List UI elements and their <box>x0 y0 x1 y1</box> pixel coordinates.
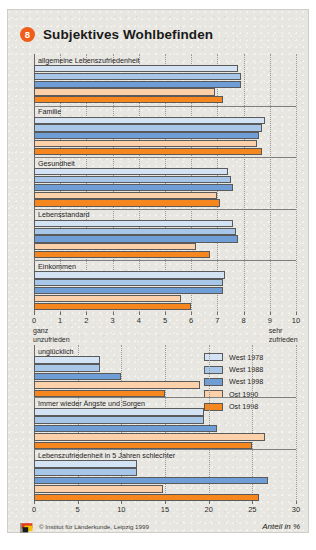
chart-subjektives-wohlbefinden: allgemeine LebenszufriedenheitFamilieGes… <box>34 54 296 312</box>
figure-footer: © Institut für Länderkunde, Leipzig 1999… <box>20 518 300 534</box>
bar <box>34 416 204 424</box>
x-axis-tick <box>34 501 35 504</box>
x-axis-tick <box>217 312 218 315</box>
x-axis-tick <box>165 312 166 315</box>
x-axis-tick-label: 6 <box>189 316 193 325</box>
bar <box>34 88 215 95</box>
x-axis-tick <box>165 501 166 504</box>
category-label: Gesundheit <box>38 159 75 168</box>
category-label: unglücklich <box>38 347 74 356</box>
screenshot-root: 8 Subjektives Wohlbefinden allgemeine Le… <box>0 0 316 550</box>
bar <box>34 243 196 250</box>
x-axis-tick-label: 9 <box>268 316 272 325</box>
x-axis-tick-label: 1 <box>58 316 62 325</box>
unit-note: Anteil in % <box>262 522 300 531</box>
bar <box>34 96 223 103</box>
chart-unwohlbefinden: unglücklichImmer wieder Ängste und Sorge… <box>34 345 296 501</box>
category-label: Lebenszufriedenheit in 5 Jahren schlecht… <box>38 451 175 460</box>
bar <box>34 220 233 227</box>
category-label: Familie <box>38 107 61 116</box>
bar <box>34 460 137 468</box>
bar <box>34 73 241 80</box>
axis-annotation: sehrzufrieden <box>269 327 298 344</box>
x-axis-tick-label: 5 <box>76 505 80 514</box>
x-axis-tick <box>270 312 271 315</box>
top-chart-x-axis: 012345678910ganzunzufriedensehrzufrieden <box>34 312 296 344</box>
bar <box>34 295 181 302</box>
x-axis-tick-label: 0 <box>32 316 36 325</box>
bar <box>34 477 268 485</box>
x-axis-tick <box>139 312 140 315</box>
x-axis-tick <box>113 312 114 315</box>
x-axis-tick-label: 8 <box>242 316 246 325</box>
x-axis-tick-label: 3 <box>111 316 115 325</box>
gridline <box>296 345 297 501</box>
x-axis-tick-label: 20 <box>204 505 212 514</box>
bar <box>34 271 225 278</box>
bar <box>34 381 200 389</box>
x-axis-tick-label: 30 <box>292 505 300 514</box>
gridline <box>270 54 271 312</box>
x-axis-tick-label: 25 <box>248 505 256 514</box>
bar <box>34 184 233 191</box>
x-axis-tick <box>34 312 35 315</box>
bar <box>34 356 100 364</box>
x-axis-tick <box>86 312 87 315</box>
bar <box>34 287 223 294</box>
figure-card: 8 Subjektives Wohlbefinden allgemeine Le… <box>8 10 308 532</box>
bottom-chart-x-axis: 051015202530 <box>34 501 296 519</box>
x-axis-tick <box>191 312 192 315</box>
figure-header: 8 Subjektives Wohlbefinden <box>20 22 300 46</box>
bar <box>34 228 236 235</box>
bar <box>34 364 100 372</box>
category-label: Lebensstandard <box>38 210 90 219</box>
bar <box>34 408 204 416</box>
bar <box>34 81 241 88</box>
x-axis-tick <box>244 312 245 315</box>
bar <box>34 433 265 441</box>
x-axis-tick <box>252 501 253 504</box>
x-axis-tick-label: 2 <box>84 316 88 325</box>
bar <box>34 148 262 155</box>
bar <box>34 124 262 131</box>
bar <box>34 279 223 286</box>
x-axis-tick <box>209 501 210 504</box>
bar <box>34 117 265 124</box>
x-axis-tick <box>78 501 79 504</box>
bar <box>34 251 210 258</box>
category-label: Immer wieder Ängste und Sorgen <box>38 399 145 408</box>
bar <box>34 468 137 476</box>
x-axis-tick <box>296 501 297 504</box>
copyright-text: © Institut für Länderkunde, Leipzig 1999 <box>39 523 149 530</box>
bar <box>34 303 191 310</box>
bar <box>34 235 238 242</box>
bar <box>34 373 121 381</box>
page-title: Subjektives Wohlbefinden <box>43 27 213 42</box>
bar <box>34 65 238 72</box>
x-axis-tick-label: 10 <box>292 316 300 325</box>
bar <box>34 425 217 433</box>
x-axis-tick-label: 5 <box>163 316 167 325</box>
gridline <box>296 54 297 312</box>
x-axis-tick-label: 0 <box>32 505 36 514</box>
bar <box>34 168 228 175</box>
bar <box>34 176 231 183</box>
figure-number-badge: 8 <box>20 27 35 42</box>
x-axis-tick <box>60 312 61 315</box>
group-separator <box>34 106 296 107</box>
ifl-flag-logo-icon <box>20 520 34 532</box>
bar <box>34 192 217 199</box>
category-label: Einkommen <box>38 262 76 271</box>
x-axis-tick <box>296 312 297 315</box>
bar <box>34 199 220 206</box>
x-axis-tick-label: 7 <box>215 316 219 325</box>
x-axis-tick <box>121 501 122 504</box>
x-axis-tick-label: 4 <box>137 316 141 325</box>
axis-annotation: ganzunzufrieden <box>33 327 70 344</box>
category-label: allgemeine Lebenszufriedenheit <box>38 56 140 65</box>
gridline <box>244 54 245 312</box>
bar <box>34 140 257 147</box>
x-axis-tick-label: 15 <box>161 505 169 514</box>
bar <box>34 485 163 493</box>
bar <box>34 132 259 139</box>
